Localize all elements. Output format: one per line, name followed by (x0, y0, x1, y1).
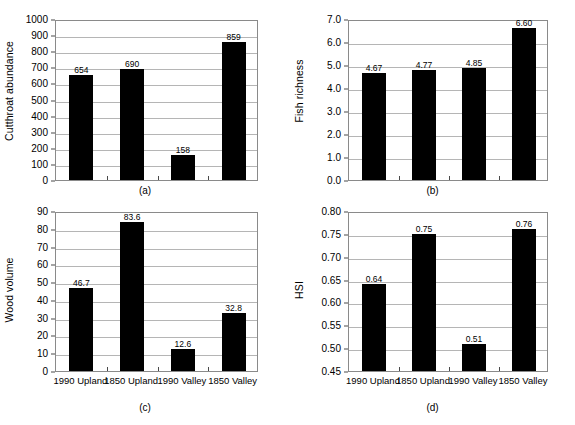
y-axis-tick-label: 40 (37, 296, 48, 306)
y-axis-tick-label: 0.70 (322, 253, 341, 263)
y-axis-tick-label: 60 (37, 260, 48, 270)
bar (120, 69, 144, 180)
x-axis-tick-mark (499, 367, 500, 371)
y-axis-tick-label: 0.60 (322, 298, 341, 308)
y-axis-tick-label: 6.0 (327, 38, 341, 48)
x-axis-tick-mark (449, 176, 450, 180)
x-axis-tick-mark (208, 176, 209, 180)
y-axis-tick-label: 0.80 (322, 207, 341, 217)
bar-value-label: 859 (214, 33, 254, 42)
bar-value-label: 0.76 (504, 220, 544, 229)
bar (222, 313, 246, 371)
bar-value-label: 0.75 (404, 225, 444, 234)
x-axis-label: 1850 Upland (396, 376, 450, 386)
bar-value-label: 46.7 (61, 279, 101, 288)
x-axis-label: 1990 Valley (157, 376, 206, 386)
y-axis-tick-label: 50 (37, 278, 48, 288)
x-axis-tick-mark (107, 367, 108, 371)
x-axis-tick-mark (158, 367, 159, 371)
bar (362, 73, 386, 180)
y-axis-tick-label: 0.65 (322, 276, 341, 286)
panel-caption: (c) (0, 403, 290, 413)
y-axis-tick-label: 0.0 (327, 176, 341, 186)
panel-a: Cutthroat abundance010020030040050060070… (0, 0, 290, 207)
bar-value-label: 0.64 (354, 275, 394, 284)
bar (120, 222, 144, 371)
bar-value-label: 654 (61, 66, 101, 75)
y-axis-ticks: 0102030405060708090 (0, 207, 55, 425)
x-axis-tick-mark (399, 367, 400, 371)
y-axis-tick-label: 4.0 (327, 84, 341, 94)
y-axis-tick-label: 0.75 (322, 230, 341, 240)
y-axis-tick-label: 0.45 (322, 367, 341, 377)
bar (222, 42, 246, 180)
panel-caption: (a) (0, 186, 290, 196)
x-axis-tick-mark (158, 176, 159, 180)
y-axis-tick-label: 900 (31, 31, 48, 41)
x-axis-labels: 1990 Upland1850 Upland1990 Valley1850 Va… (55, 376, 258, 390)
bar (69, 75, 93, 180)
bar-value-label: 83.6 (112, 213, 152, 222)
y-axis-tick-label: 2.0 (327, 130, 341, 140)
y-axis-ticks: 0.450.500.550.600.650.700.750.80 (290, 207, 348, 425)
y-axis-tick-label: 3.0 (327, 107, 341, 117)
y-axis-tick-label: 600 (31, 79, 48, 89)
plot-area: 4.674.774.856.60 (348, 20, 548, 181)
x-axis-labels: 1990 Upland1850 Upland1990 Valley1850 Va… (348, 376, 548, 390)
bar (412, 234, 436, 371)
x-axis-tick-mark (107, 176, 108, 180)
y-axis-tick-label: 20 (37, 331, 48, 341)
plot-area: 46.783.612.632.8 (55, 212, 258, 372)
y-axis-tick-label: 0 (42, 367, 48, 377)
y-axis-tick-label: 7.0 (327, 15, 341, 25)
bar (69, 288, 93, 371)
panel-d: HSI0.450.500.550.600.650.700.750.800.640… (290, 207, 575, 425)
y-axis-tick-label: 0.50 (322, 344, 341, 354)
panel-b: Fish richness0.01.02.03.04.05.06.07.04.6… (290, 0, 575, 207)
bar (512, 229, 536, 371)
y-axis-tick-label: 1.0 (327, 153, 341, 163)
y-axis-ticks: 0.01.02.03.04.05.06.07.0 (290, 0, 348, 207)
y-axis-tick-label: 0 (42, 176, 48, 186)
plot-area: 0.640.750.510.76 (348, 212, 548, 372)
x-axis-tick-mark (208, 367, 209, 371)
x-axis-label: 1850 Valley (499, 376, 548, 386)
bar-value-label: 4.67 (354, 64, 394, 73)
bar (171, 155, 195, 180)
x-axis-tick-mark (499, 176, 500, 180)
y-axis-tick-label: 300 (31, 128, 48, 138)
y-axis-tick-label: 10 (37, 349, 48, 359)
y-axis-tick-label: 80 (37, 225, 48, 235)
panel-caption: (b) (290, 186, 575, 196)
x-axis-label: 1850 Upland (104, 376, 158, 386)
y-axis-tick-label: 0.55 (322, 321, 341, 331)
y-axis-tick-label: 5.0 (327, 61, 341, 71)
y-axis-tick-label: 100 (31, 160, 48, 170)
y-axis-tick-label: 70 (37, 243, 48, 253)
bar-value-label: 6.60 (504, 19, 544, 28)
bar-value-label: 0.51 (454, 335, 494, 344)
bar-value-label: 32.8 (214, 304, 254, 313)
gridline (56, 266, 257, 267)
plot-area: 654690158859 (55, 20, 258, 181)
x-axis-label: 1990 Upland (346, 376, 400, 386)
bar-value-label: 158 (163, 146, 203, 155)
bar (462, 68, 486, 180)
bar-value-label: 4.77 (404, 61, 444, 70)
bar (412, 70, 436, 180)
x-axis-tick-mark (399, 176, 400, 180)
x-axis-label: 1850 Valley (208, 376, 257, 386)
y-axis-tick-label: 500 (31, 96, 48, 106)
panel-caption: (d) (290, 403, 575, 413)
y-axis-ticks: 01002003004005006007008009001000 (0, 0, 55, 207)
bar-value-label: 12.6 (163, 340, 203, 349)
bar-value-label: 4.85 (454, 59, 494, 68)
y-axis-tick-label: 400 (31, 112, 48, 122)
y-axis-tick-label: 200 (31, 144, 48, 154)
panel-c: Wood volume010203040506070809046.783.612… (0, 207, 290, 425)
x-axis-tick-mark (449, 367, 450, 371)
bar (512, 28, 536, 180)
bar (362, 284, 386, 371)
y-axis-tick-label: 30 (37, 314, 48, 324)
multi-panel-bar-figure: Cutthroat abundance010020030040050060070… (0, 0, 575, 425)
